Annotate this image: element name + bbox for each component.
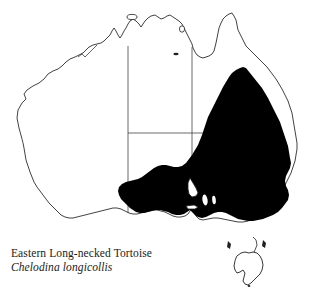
- flinders-island: [262, 240, 266, 248]
- tasmania-south-detail: [248, 285, 251, 287]
- mornington-island: [173, 53, 178, 56]
- caption-scientific-name: Chelodina longicollis: [11, 261, 152, 275]
- groote-island: [179, 26, 184, 32]
- tasmania-outline: [234, 252, 263, 285]
- king-island: [227, 241, 231, 249]
- melville-island: [127, 14, 137, 19]
- caption: Eastern Long-necked Tortoise Chelodina l…: [11, 247, 152, 274]
- caption-common-name: Eastern Long-necked Tortoise: [11, 247, 152, 261]
- species-distribution-figure: Eastern Long-necked Tortoise Chelodina l…: [0, 0, 313, 294]
